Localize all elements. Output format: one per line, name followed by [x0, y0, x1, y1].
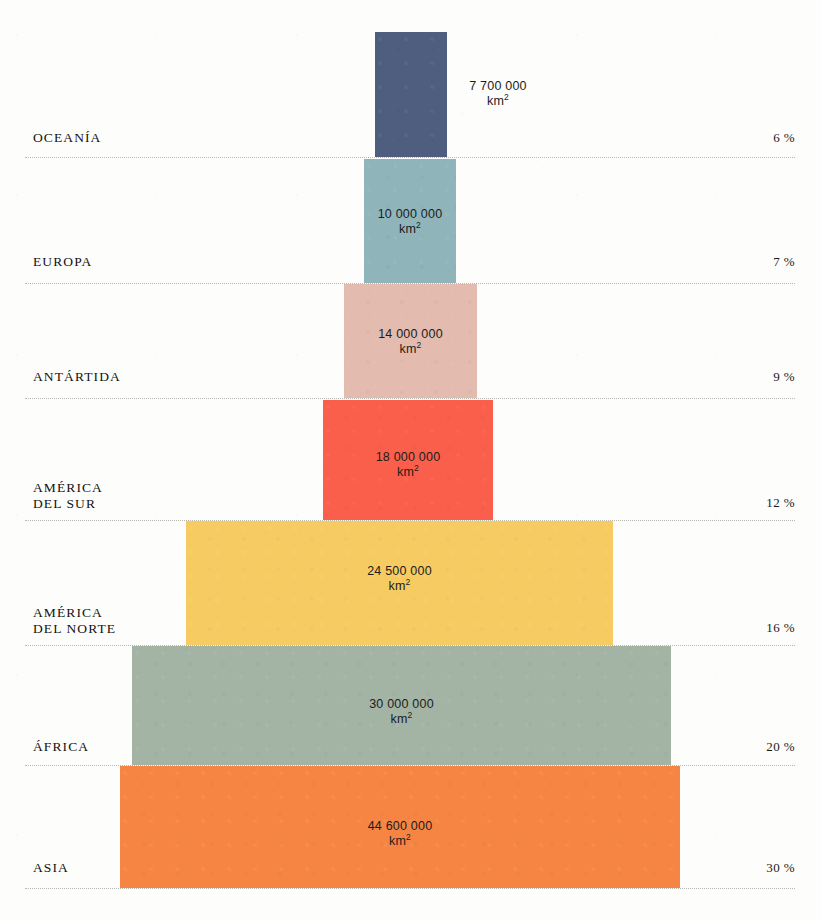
- bar-value-unit-exponent: 2: [504, 92, 509, 102]
- row-separator-line: [25, 888, 795, 889]
- percent-label-europa: 7 %: [773, 254, 795, 270]
- percent-label-áfrica: 20 %: [766, 739, 795, 755]
- bar-value-unit: km2: [186, 579, 613, 594]
- bar-value-unit: km2: [455, 94, 541, 109]
- bar-value-number: 18 000 000: [376, 450, 441, 464]
- continent-label-oceanía: OCEANÍA: [33, 130, 101, 146]
- percent-label-américa-del-norte: 16 %: [766, 620, 795, 636]
- bar-value-unit: km2: [344, 342, 477, 357]
- bar-value-number: 24 500 000: [367, 564, 432, 578]
- bar-value-label: 10 000 000km2: [364, 207, 456, 237]
- bar-value-unit: km2: [120, 834, 680, 849]
- bar-value-unit: km2: [132, 712, 671, 727]
- percent-label-asia: 30 %: [766, 860, 795, 876]
- bar-value-label: 7 700 000km2: [455, 79, 541, 109]
- continent-label-europa: EUROPA: [33, 254, 92, 270]
- bar-value-label: 18 000 000km2: [323, 450, 493, 480]
- bar-value-unit-exponent: 2: [408, 710, 413, 720]
- bar-value-label: 14 000 000km2: [344, 327, 477, 357]
- bar-value-unit-text: km: [390, 712, 407, 726]
- bar-value-number: 10 000 000: [378, 207, 443, 221]
- bar-value-unit-exponent: 2: [406, 577, 411, 587]
- continent-label-áfrica: ÁFRICA: [33, 739, 89, 755]
- bar-value-number: 7 700 000: [469, 79, 526, 93]
- bar-oceanía: [375, 32, 447, 157]
- bar-value-label: 24 500 000km2: [186, 564, 613, 594]
- bar-value-number: 14 000 000: [378, 327, 443, 341]
- continent-label-américa-del-sur: AMÉRICA DEL SUR: [33, 480, 103, 512]
- bar-value-unit-exponent: 2: [417, 340, 422, 350]
- bar-value-unit-exponent: 2: [414, 463, 419, 473]
- bar-value-label: 44 600 000km2: [120, 819, 680, 849]
- bar-value-label: 30 000 000km2: [132, 697, 671, 727]
- bar-value-unit-text: km: [388, 579, 405, 593]
- percent-label-américa-del-sur: 12 %: [766, 495, 795, 511]
- bar-value-unit-text: km: [399, 222, 416, 236]
- bar-value-unit-text: km: [397, 465, 414, 479]
- percent-label-antártida: 9 %: [773, 369, 795, 385]
- bar-value-unit: km2: [323, 465, 493, 480]
- row-separator-line: [25, 157, 795, 158]
- bar-value-unit-exponent: 2: [416, 220, 421, 230]
- continent-label-antártida: ANTÁRTIDA: [33, 369, 121, 385]
- continent-label-américa-del-norte: AMÉRICA DEL NORTE: [33, 605, 116, 637]
- row-separator-line: [25, 398, 795, 399]
- bar-value-number: 44 600 000: [368, 819, 433, 833]
- bar-value-unit-text: km: [487, 94, 504, 108]
- bar-value-unit-text: km: [399, 342, 416, 356]
- bar-value-number: 30 000 000: [369, 697, 434, 711]
- bar-value-unit-text: km: [389, 834, 406, 848]
- bar-value-unit-exponent: 2: [406, 832, 411, 842]
- continent-label-asia: ASIA: [33, 860, 69, 876]
- infographic-page: 7 700 000km2OCEANÍA6 %10 000 000km2EUROP…: [0, 0, 821, 920]
- percent-label-oceanía: 6 %: [773, 130, 795, 146]
- bar-value-unit: km2: [364, 222, 456, 237]
